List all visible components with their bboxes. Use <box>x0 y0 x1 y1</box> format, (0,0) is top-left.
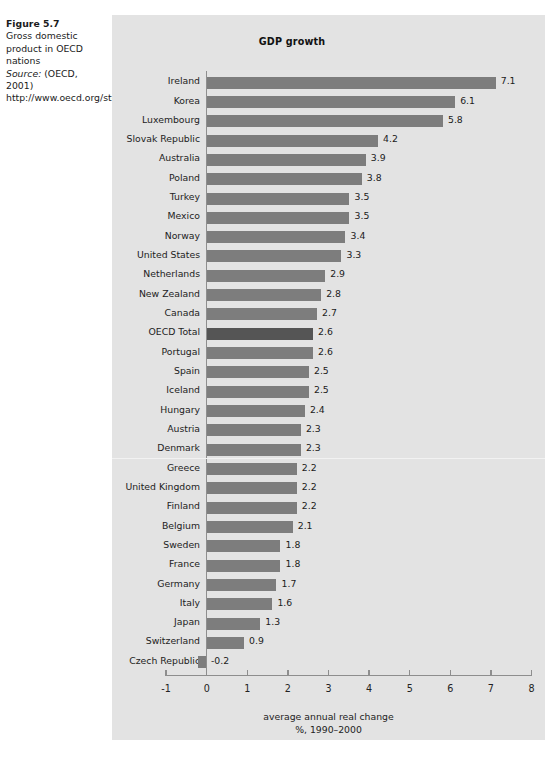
bar-value-label: 2.6 <box>318 346 333 357</box>
bar <box>207 502 296 514</box>
bar-value-label: 2.6 <box>318 326 333 337</box>
x-axis-caption: average annual real change %, 1990–2000 <box>112 710 545 736</box>
bar <box>207 618 260 630</box>
bar <box>207 366 309 378</box>
bar-category-label: Netherlands <box>112 268 200 279</box>
bar-value-label: 2.3 <box>306 442 321 453</box>
bar-category-label: Czech Republic <box>112 655 200 666</box>
bar-category-label: Hungary <box>112 404 200 415</box>
x-axis-tick <box>165 670 166 675</box>
x-axis-line <box>165 675 532 676</box>
bar-category-label: Turkey <box>112 191 200 202</box>
bar-row: Iceland2.5 <box>112 382 545 401</box>
bar-category-label: Sweden <box>112 539 200 550</box>
bar-value-label: 3.5 <box>355 210 370 221</box>
bar-row: Finland2.2 <box>112 498 545 517</box>
bar-value-label: 1.8 <box>286 558 301 569</box>
bar-category-label: Slovak Republic <box>112 133 200 144</box>
bar-value-label: 1.3 <box>265 616 280 627</box>
bar-category-label: Denmark <box>112 442 200 453</box>
bar-category-label: Austria <box>112 423 200 434</box>
bar-row: Luxembourg5.8 <box>112 112 545 131</box>
bar-category-label: Norway <box>112 230 200 241</box>
bar-row: New Zealand2.8 <box>112 286 545 305</box>
bar-category-label: Australia <box>112 152 200 163</box>
bar <box>207 193 349 205</box>
bar-category-label: Greece <box>112 462 200 473</box>
bar-row: Austria2.3 <box>112 421 545 440</box>
bar-value-label: 3.9 <box>371 152 386 163</box>
x-axis-tick-label: 2 <box>276 683 300 694</box>
bar-category-label: Iceland <box>112 384 200 395</box>
bar <box>198 656 206 668</box>
bar-category-label: Germany <box>112 578 200 589</box>
bar <box>207 212 349 224</box>
bar <box>207 540 280 552</box>
bar-value-label: 2.1 <box>298 520 313 531</box>
bar-category-label: Luxembourg <box>112 114 200 125</box>
bar-category-label: United Kingdom <box>112 481 200 492</box>
bar-value-label: 0.9 <box>249 635 264 646</box>
bar-category-label: Poland <box>112 172 200 183</box>
bar-category-label: Korea <box>112 95 200 106</box>
bar <box>207 482 296 494</box>
figure-caption: Figure 5.7 Gross domestic product in OEC… <box>6 18 106 105</box>
bar-row: Portugal2.6 <box>112 343 545 362</box>
bar-value-label: 2.8 <box>326 288 341 299</box>
bar-category-label: Mexico <box>112 210 200 221</box>
bar <box>207 328 313 340</box>
x-axis-tick-label: -1 <box>154 683 178 694</box>
x-axis-tick <box>328 670 329 675</box>
bar <box>207 598 272 610</box>
bar <box>207 637 244 649</box>
x-axis-tick-label: 3 <box>317 683 341 694</box>
bar-row: Australia3.9 <box>112 150 545 169</box>
bar-row: Denmark2.3 <box>112 440 545 459</box>
x-axis-tick <box>409 670 410 675</box>
bar <box>207 77 495 89</box>
x-axis-tick <box>490 670 491 675</box>
bar-row: Italy1.6 <box>112 595 545 614</box>
x-axis-tick-label: 0 <box>195 683 219 694</box>
bar-row: Belgium2.1 <box>112 517 545 536</box>
bar-row: Canada2.7 <box>112 305 545 324</box>
bar-value-label: 2.2 <box>302 462 317 473</box>
bar-value-label: 2.2 <box>302 481 317 492</box>
bar-value-label: 3.5 <box>355 191 370 202</box>
bar <box>207 521 292 533</box>
chart-panel: GDP growth Ireland7.1Korea6.1Luxembourg5… <box>112 15 545 740</box>
bar-category-label: Italy <box>112 597 200 608</box>
bar <box>207 173 361 185</box>
bar <box>207 444 300 456</box>
bar-value-label: 2.9 <box>330 268 345 279</box>
bar-category-label: France <box>112 558 200 569</box>
bar-value-label: 1.7 <box>282 578 297 589</box>
bar <box>207 424 300 436</box>
bar-row: Norway3.4 <box>112 228 545 247</box>
bar <box>207 405 304 417</box>
bar-category-label: New Zealand <box>112 288 200 299</box>
bar <box>207 347 313 359</box>
x-axis-tick-label: 7 <box>479 683 503 694</box>
x-axis-tick <box>206 670 207 675</box>
bar-row: Netherlands2.9 <box>112 266 545 285</box>
x-axis-tick-label: 8 <box>520 683 544 694</box>
bar <box>207 96 455 108</box>
bar-chart-plot: Ireland7.1Korea6.1Luxembourg5.8Slovak Re… <box>112 15 545 740</box>
bar-value-label: 5.8 <box>448 114 463 125</box>
bar <box>207 463 296 475</box>
bar-row: Ireland7.1 <box>112 73 545 92</box>
x-axis-tick <box>450 670 451 675</box>
bar-value-label: 3.4 <box>351 230 366 241</box>
bar <box>207 386 309 398</box>
bar-row: OECD Total2.6 <box>112 324 545 343</box>
bar <box>207 289 321 301</box>
x-axis-tick-label: 4 <box>357 683 381 694</box>
bar-row: Spain2.5 <box>112 363 545 382</box>
bar-value-label: 4.2 <box>383 133 398 144</box>
x-axis-caption-line1: average annual real change <box>112 710 545 723</box>
figure-description: Gross domestic product in OECD nations <box>6 30 106 67</box>
bar-category-label: Switzerland <box>112 635 200 646</box>
x-axis-tick-label: 1 <box>235 683 259 694</box>
bar <box>207 115 442 127</box>
